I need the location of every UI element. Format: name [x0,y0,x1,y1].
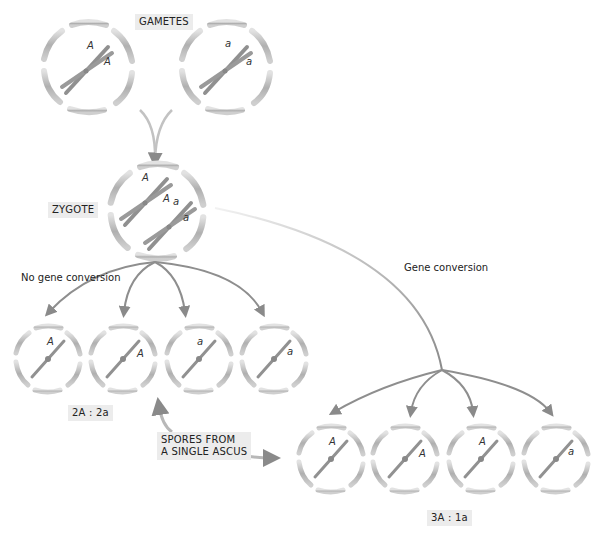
svg-text:a: a [225,38,231,49]
spore-gc-1: A [299,426,363,492]
spores-label-line2: A SINGLE ASCUS [161,446,247,458]
gamete-cell-a: a a [182,22,270,112]
spore-nc-4: a [242,326,306,392]
svg-text:A: A [162,193,170,204]
svg-text:A: A [136,348,144,359]
gene-conversion-label: Gene conversion [404,262,488,273]
svg-text:A: A [103,56,111,67]
no-gene-conversion-label: No gene conversion [21,272,121,283]
spore-nc-2: A [91,326,155,392]
spores-from-ascus-label: SPORES FROM A SINGLE ASCUS [157,432,251,460]
svg-text:A: A [418,448,426,459]
spore-gc-3: A [449,426,513,492]
ratio-no-conversion: 2A : 2a [68,405,113,421]
gamete-cell-A: A A [44,22,132,112]
svg-text:A: A [86,40,94,51]
svg-text:A: A [328,436,336,447]
merge-arrow [140,110,155,160]
zygote-cell: A A a a [111,164,203,259]
svg-text:a: a [246,56,252,67]
ratio-gene-conversion: 3A : 1a [427,510,472,526]
spore-gc-4: a [524,426,588,492]
svg-text:a: a [287,346,293,357]
svg-text:a: a [568,446,574,457]
gene-conversion-path [215,208,442,370]
spore-gc-2: A [373,426,437,492]
svg-text:a: a [183,212,189,223]
no-conversion-arrows [49,262,262,312]
svg-text:a: a [173,196,179,207]
svg-text:a: a [197,336,203,347]
spores-label-line1: SPORES FROM [161,434,247,446]
svg-text:A: A [478,436,486,447]
spore-nc-3: a [167,326,231,392]
svg-text:A: A [46,336,54,347]
spore-nc-1: A [16,326,80,392]
zygote-label: ZYGOTE [48,202,98,218]
conversion-arrows [334,370,550,412]
svg-text:A: A [141,172,149,183]
gametes-label: GAMETES [135,14,193,30]
gene-conversion-diagram: A A a a A A a a A A a [0,0,607,537]
